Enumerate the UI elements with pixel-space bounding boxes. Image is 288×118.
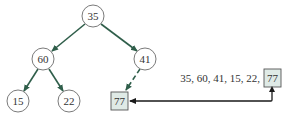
sequence-text: 35, 60, 41, 15, 22, [180,72,260,84]
svg-text:22: 22 [64,95,75,107]
insert-pointer-arrow [130,88,272,101]
node-41: 41 [134,48,156,70]
edge-60-22 [49,69,63,91]
sequence-new-item: 77 [264,69,281,87]
svg-text:15: 15 [13,95,25,107]
node-15: 15 [7,90,29,112]
tree-diagram: 35 60 41 15 22 77 35, 60, 41, 15, 22, 77 [0,0,288,118]
edge-60-15 [24,69,38,91]
svg-text:77: 77 [114,95,126,107]
svg-text:41: 41 [140,53,151,65]
edge-35-41 [101,24,137,51]
node-77-inserted: 77 [111,92,128,110]
edge-35-60 [52,24,85,51]
node-22: 22 [58,90,80,112]
svg-text:77: 77 [267,72,279,84]
edge-41-77-dashed [126,69,140,90]
svg-text:60: 60 [38,53,50,65]
node-60: 60 [32,48,54,70]
svg-text:35: 35 [88,10,100,22]
node-35: 35 [82,5,104,27]
